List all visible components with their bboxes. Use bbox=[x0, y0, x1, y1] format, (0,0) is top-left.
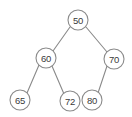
tree-canvas: 506070657280 bbox=[0, 0, 132, 117]
node-label: 72 bbox=[65, 96, 75, 107]
tree-node: 72 bbox=[60, 91, 80, 111]
node-label: 50 bbox=[73, 15, 83, 26]
node-label: 70 bbox=[109, 54, 119, 65]
node-label: 80 bbox=[87, 95, 97, 106]
tree-edge bbox=[86, 27, 107, 52]
node-label: 65 bbox=[15, 95, 25, 106]
node-label: 60 bbox=[41, 53, 51, 64]
binary-tree-diagram: 506070657280 bbox=[0, 0, 132, 117]
tree-node: 60 bbox=[36, 48, 56, 68]
tree-edge bbox=[52, 66, 64, 94]
tree-edge bbox=[53, 27, 70, 51]
tree-node: 80 bbox=[82, 90, 102, 110]
tree-edge bbox=[27, 65, 39, 93]
node-layer: 506070657280 bbox=[10, 10, 124, 111]
tree-node: 65 bbox=[10, 90, 30, 110]
tree-node: 50 bbox=[68, 10, 88, 30]
tree-node: 70 bbox=[104, 49, 124, 69]
tree-edge bbox=[98, 66, 107, 93]
